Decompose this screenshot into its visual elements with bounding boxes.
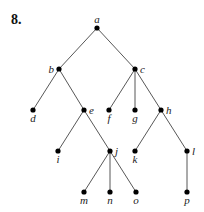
edge-e-i (58, 110, 84, 151)
vertex-label-o: o (133, 194, 139, 206)
vertex-j (107, 148, 112, 153)
edge-b-e (59, 69, 84, 110)
vertex-label-n: n (107, 194, 113, 206)
vertex-a (94, 25, 99, 30)
edge-h-l (161, 110, 187, 151)
edge-h-k (135, 110, 161, 151)
vertex-label-c: c (140, 63, 145, 75)
vertex-h (158, 107, 163, 112)
vertex-label-l: l (192, 145, 195, 157)
tree-nodes: abcdefghijklmnop (30, 13, 195, 206)
edge-a-c (97, 28, 135, 69)
edge-c-f (109, 69, 135, 110)
vertex-label-k: k (133, 153, 139, 165)
vertex-e (81, 107, 86, 112)
vertex-label-j: j (113, 145, 118, 157)
vertex-label-p: p (183, 194, 190, 206)
edge-a-b (59, 28, 97, 69)
rooted-tree-diagram: abcdefghijklmnop (0, 0, 204, 212)
vertex-label-e: e (89, 104, 94, 116)
edge-c-h (135, 69, 161, 110)
edge-b-d (33, 69, 59, 110)
vertex-label-i: i (56, 153, 59, 165)
vertex-label-a: a (94, 13, 100, 25)
vertex-label-b: b (49, 63, 55, 75)
vertex-label-m: m (80, 194, 88, 206)
vertex-b (56, 66, 61, 71)
vertex-label-d: d (30, 112, 36, 124)
edge-e-j (84, 110, 110, 151)
vertex-label-f: f (107, 112, 112, 124)
vertex-label-g: g (132, 112, 138, 124)
vertex-c (132, 66, 137, 71)
vertex-l (184, 148, 189, 153)
vertex-label-h: h (166, 104, 172, 116)
edge-j-m (84, 151, 110, 192)
